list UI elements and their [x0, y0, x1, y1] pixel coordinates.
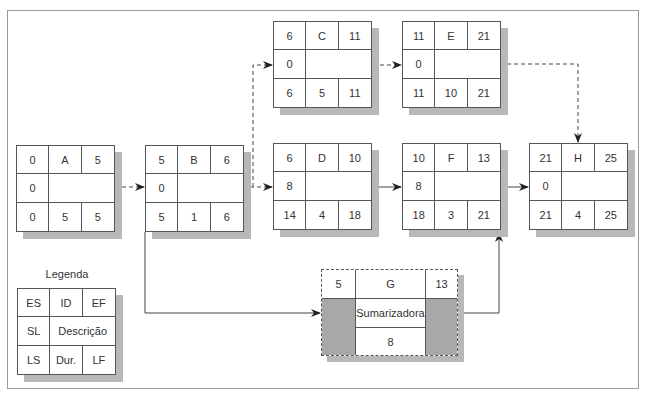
early-finish: 13 [468, 144, 500, 172]
description: Sumarizadora [356, 299, 426, 328]
early-start: 5 [146, 146, 178, 174]
legend-ls: LS [18, 346, 50, 374]
late-start: 5 [146, 203, 178, 231]
duration: 4 [306, 201, 338, 229]
description [435, 50, 500, 78]
legend: ES ID EF SL Descrição LS Dur. LF [17, 288, 116, 375]
slack: 0 [530, 172, 562, 200]
slack: 0 [146, 174, 178, 202]
late-start: 18 [403, 201, 435, 229]
node-e: 11 E 21 0 11 10 21 [402, 21, 501, 108]
activity-id: H [562, 144, 594, 172]
duration: 10 [435, 79, 467, 107]
description [562, 172, 627, 200]
shaded-right [426, 299, 457, 355]
late-start: 21 [530, 201, 562, 229]
duration: 1 [178, 203, 210, 231]
early-start: 11 [403, 22, 435, 50]
activity-id: A [49, 146, 81, 174]
late-start: 14 [274, 201, 306, 229]
early-finish: 25 [595, 144, 627, 172]
shaded-left [322, 299, 356, 355]
early-start: 5 [322, 270, 356, 299]
early-start: 6 [274, 22, 306, 50]
node-g-summary: 5 G 13 Sumarizadora 8 [321, 269, 458, 356]
duration: 8 [356, 328, 426, 355]
legend-duration: Dur. [50, 346, 82, 374]
late-start: 11 [403, 79, 435, 107]
early-finish: 11 [339, 22, 371, 50]
early-finish: 6 [211, 146, 243, 174]
early-start: 0 [17, 146, 49, 174]
activity-id: E [435, 22, 467, 50]
node-b: 5 B 6 0 5 1 6 [145, 145, 244, 232]
early-finish: 13 [426, 270, 457, 299]
description [306, 172, 371, 200]
early-finish: 10 [339, 144, 371, 172]
legend-ef: EF [83, 289, 115, 317]
slack: 0 [403, 50, 435, 78]
node-h: 21 H 25 0 21 4 25 [529, 143, 628, 230]
late-finish: 21 [468, 79, 500, 107]
legend-lf: LF [83, 346, 115, 374]
late-start: 6 [274, 79, 306, 107]
legend-description: Descrição [50, 317, 115, 345]
late-finish: 5 [82, 203, 114, 231]
late-finish: 21 [468, 201, 500, 229]
early-start: 6 [274, 144, 306, 172]
activity-id: C [306, 22, 338, 50]
node-f: 10 F 13 8 18 3 21 [402, 143, 501, 230]
duration: 5 [49, 203, 81, 231]
duration: 4 [562, 201, 594, 229]
activity-id: B [178, 146, 210, 174]
slack: 8 [274, 172, 306, 200]
late-finish: 11 [339, 79, 371, 107]
legend-es: ES [18, 289, 50, 317]
activity-id: D [306, 144, 338, 172]
early-start: 10 [403, 144, 435, 172]
legend-sl: SL [18, 317, 50, 345]
slack: 0 [17, 174, 49, 202]
duration: 5 [306, 79, 338, 107]
legend-id: ID [50, 289, 82, 317]
description [49, 174, 114, 202]
node-c: 6 C 11 0 6 5 11 [273, 21, 372, 108]
late-finish: 6 [211, 203, 243, 231]
description [306, 50, 371, 78]
legend-title: Legenda [17, 268, 117, 280]
description [435, 172, 500, 200]
slack: 8 [403, 172, 435, 200]
late-start: 0 [17, 203, 49, 231]
early-start: 21 [530, 144, 562, 172]
node-a: 0 A 5 0 0 5 5 [16, 145, 115, 232]
early-finish: 21 [468, 22, 500, 50]
node-d: 6 D 10 8 14 4 18 [273, 143, 372, 230]
late-finish: 18 [339, 201, 371, 229]
duration: 3 [435, 201, 467, 229]
activity-id: G [356, 270, 426, 299]
activity-id: F [435, 144, 467, 172]
description [178, 174, 243, 202]
slack: 0 [274, 50, 306, 78]
late-finish: 25 [595, 201, 627, 229]
early-finish: 5 [82, 146, 114, 174]
